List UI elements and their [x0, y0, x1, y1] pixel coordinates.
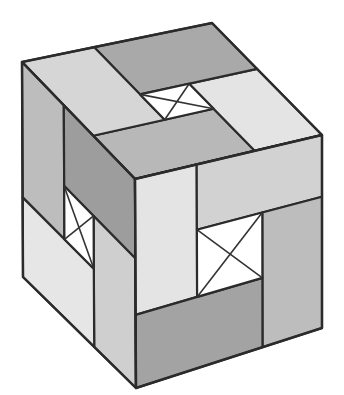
- right-outer-bar: [262, 197, 322, 347]
- cube-figure: [0, 0, 344, 395]
- right-front-bar: [135, 165, 197, 315]
- right-face: [135, 135, 322, 388]
- cube-diagram: [0, 0, 344, 395]
